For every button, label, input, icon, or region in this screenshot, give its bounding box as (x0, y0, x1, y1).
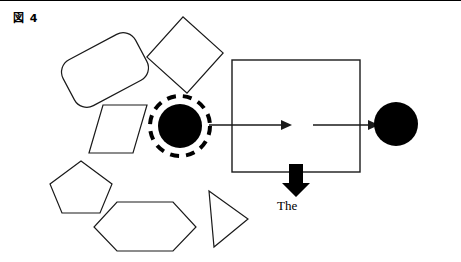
figure-canvas: 図 4 (0, 0, 461, 262)
triangle (209, 191, 248, 247)
main-rectangle (232, 60, 360, 172)
rounded-rectangle-outline (57, 28, 154, 112)
diagram-svg (0, 1, 461, 262)
hexagon (94, 202, 196, 251)
parallelogram (89, 105, 147, 153)
arrow-circle-to-rectangle (209, 120, 292, 130)
filled-circle-right (374, 102, 418, 146)
arrow-down-block (282, 164, 310, 197)
filled-circle-left (158, 104, 202, 148)
rounded-rectangle (57, 28, 154, 112)
rotated-square (147, 17, 223, 93)
rotated-square-outline (147, 17, 223, 93)
the-label: The (277, 199, 297, 212)
arrow-rectangle-to-circle (313, 120, 379, 130)
pentagon (50, 161, 112, 213)
arrow-head (281, 120, 292, 130)
